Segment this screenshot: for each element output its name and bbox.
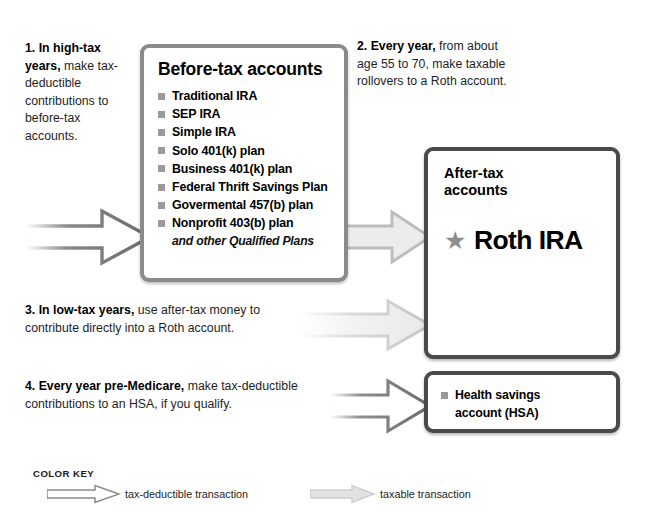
hsa-entry: Health savings account (HSA): [441, 386, 616, 422]
square-bullet-icon: [158, 202, 165, 209]
list-item-label: Traditional IRA: [172, 87, 257, 105]
list-item: Govermental 457(b) plan: [158, 196, 344, 214]
step-3-lead: 3. In low-tax years,: [25, 303, 134, 317]
color-key-title: COLOR KEY: [33, 468, 453, 479]
square-bullet-icon: [158, 111, 165, 118]
before-tax-account-list: Traditional IRA SEP IRA Simple IRA Solo …: [144, 87, 344, 233]
step-2-text: 2. Every year, from about age 55 to 70, …: [357, 38, 517, 91]
diagram-canvas: 1. In high-tax years, make tax-deductibl…: [0, 0, 646, 512]
list-item-label: SEP IRA: [172, 105, 220, 123]
star-icon: ★: [444, 228, 466, 253]
before-tax-accounts-panel: Before-tax accounts Traditional IRA SEP …: [140, 44, 348, 282]
color-key-legend: COLOR KEY tax-deductible transaction tax…: [33, 468, 453, 504]
list-item-label: Business 401(k) plan: [172, 160, 292, 178]
step-4-text: 4. Every year pre-Medicare, make tax-ded…: [25, 378, 331, 413]
square-bullet-icon: [158, 147, 165, 154]
list-item-label: Govermental 457(b) plan: [172, 196, 313, 214]
square-bullet-icon: [158, 93, 165, 100]
legend-item-taxable: taxable transaction: [310, 484, 471, 504]
list-item: Simple IRA: [158, 123, 344, 141]
square-bullet-icon: [441, 392, 448, 399]
step-2-lead: 2. Every year,: [357, 39, 436, 53]
list-item-label: Simple IRA: [172, 123, 236, 141]
roth-ira-label: Roth IRA: [474, 225, 583, 256]
step-1-text: 1. In high-tax years, make tax-deductibl…: [25, 40, 133, 146]
arrow-outline-icon: [47, 484, 121, 504]
list-item-label: Federal Thrift Savings Plan: [172, 178, 328, 196]
arrow-direct-roth-contribution: [300, 299, 432, 351]
after-tax-title: After-tax accounts: [444, 165, 564, 199]
arrow-rollover-to-roth: [346, 209, 432, 265]
legend-item-tax-deductible: tax-deductible transaction: [47, 484, 248, 504]
after-tax-accounts-panel: After-tax accounts ★ Roth IRA: [424, 147, 620, 359]
legend-label: taxable transaction: [380, 488, 471, 500]
list-item: Federal Thrift Savings Plan: [158, 178, 344, 196]
list-item: Solo 401(k) plan: [158, 142, 344, 160]
before-tax-footnote: and other Qualified Plans: [172, 234, 344, 248]
roth-ira-entry: ★ Roth IRA: [444, 225, 616, 256]
square-bullet-icon: [158, 129, 165, 136]
before-tax-title: Before-tax accounts: [158, 59, 344, 80]
hsa-label: Health savings account (HSA): [455, 386, 585, 422]
square-bullet-icon: [158, 165, 165, 172]
legend-label: tax-deductible transaction: [125, 488, 248, 500]
arrow-contributions-to-before-tax: [26, 208, 152, 266]
list-item: Traditional IRA: [158, 87, 344, 105]
color-key-items: tax-deductible transaction taxable trans…: [33, 484, 453, 504]
list-item: SEP IRA: [158, 105, 344, 123]
step-3-text: 3. In low-tax years, use after-tax money…: [25, 302, 315, 337]
arrow-filled-icon: [310, 484, 376, 504]
square-bullet-icon: [158, 184, 165, 191]
list-item: Nonprofit 403(b) plan: [158, 214, 344, 232]
hsa-panel: Health savings account (HSA): [424, 371, 620, 433]
step-4-lead: 4. Every year pre-Medicare,: [25, 379, 184, 393]
square-bullet-icon: [158, 220, 165, 227]
clipped-header-fragment: [95, 0, 515, 4]
list-item-label: Nonprofit 403(b) plan: [172, 214, 293, 232]
list-item: Business 401(k) plan: [158, 160, 344, 178]
arrow-hsa-contribution: [330, 379, 432, 433]
list-item-label: Solo 401(k) plan: [172, 142, 265, 160]
